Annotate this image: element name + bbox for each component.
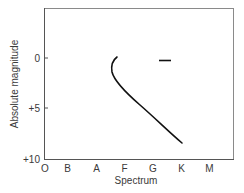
x-tick-label-F: F [121,163,127,174]
y-tick-label-10: +10 [23,154,40,165]
x-tick-label-K: K [178,163,185,174]
x-tick-label-G: G [149,163,157,174]
y-axis-title: Absolute magnitude [9,39,20,128]
x-tick-label-A: A [93,163,100,174]
x-tick-label-M: M [205,163,213,174]
y-tick-label-0: 0 [34,53,40,64]
x-tick-label-B: B [64,163,71,174]
plot-frame [45,9,234,160]
hr-diagram-chart: 0 +5 +10 O B A F G K M Spectrum Absolute… [0,0,244,193]
main-sequence-curve [112,57,182,143]
y-tick-label-5: +5 [29,103,41,114]
x-tick-label-O: O [41,163,49,174]
x-axis-title: Spectrum [115,175,158,186]
